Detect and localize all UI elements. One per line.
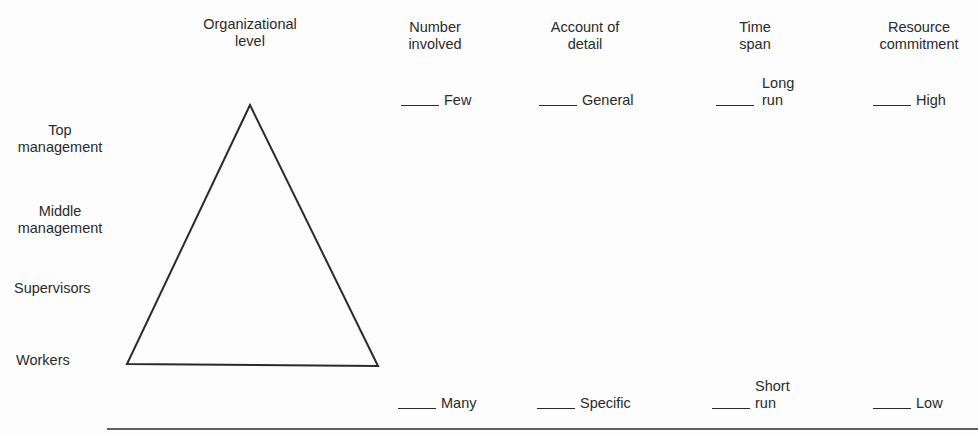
value-few: Few	[444, 92, 471, 109]
scale-time-top: Long run	[716, 75, 794, 109]
blank-line	[873, 408, 911, 409]
value-general: General	[582, 92, 634, 109]
scale-detail-top: General	[539, 75, 634, 109]
scale-number-top: Few	[401, 75, 471, 109]
header-time-span: Time span	[715, 19, 795, 53]
scale-time-bottom: Short run	[712, 378, 790, 412]
value-high: High	[916, 92, 946, 109]
scale-resource-bottom: Low	[873, 378, 943, 412]
blank-line	[716, 105, 754, 106]
blank-line	[712, 408, 750, 409]
blank-line	[537, 408, 575, 409]
header-organizational-level: Organizational level	[180, 16, 320, 50]
header-resource-commitment: Resource commitment	[860, 19, 978, 53]
value-specific: Specific	[580, 395, 631, 412]
value-many: Many	[441, 395, 476, 412]
blank-line	[873, 105, 911, 106]
level-workers: Workers	[16, 352, 86, 369]
organization-pyramid	[127, 105, 378, 366]
level-middle-management: Middle management	[8, 203, 112, 237]
blank-line	[401, 105, 439, 106]
level-top-management: Top management	[8, 122, 112, 156]
header-number-involved: Number involved	[390, 19, 480, 53]
value-short-run: Short run	[755, 378, 790, 412]
scale-resource-top: High	[873, 75, 946, 109]
value-long-run: Long run	[762, 75, 794, 109]
header-account-of-detail: Account of detail	[530, 19, 640, 53]
diagram-lines	[0, 0, 978, 435]
scale-number-bottom: Many	[398, 378, 476, 412]
level-supervisors: Supervisors	[14, 280, 98, 297]
blank-line	[398, 408, 436, 409]
value-low: Low	[916, 395, 943, 412]
scale-detail-bottom: Specific	[537, 378, 631, 412]
blank-line	[539, 105, 577, 106]
